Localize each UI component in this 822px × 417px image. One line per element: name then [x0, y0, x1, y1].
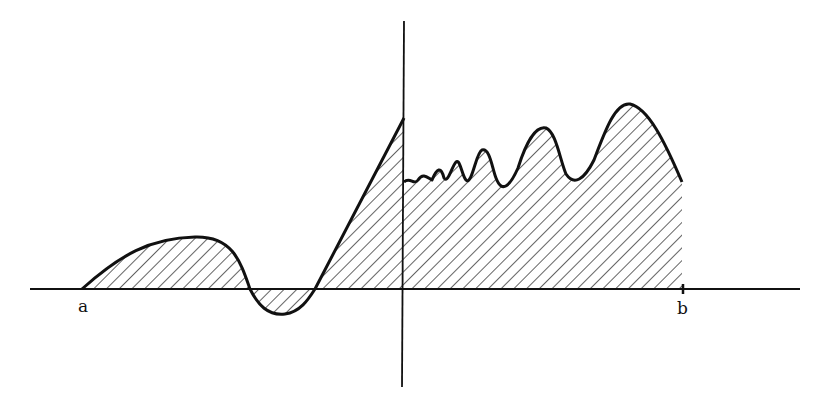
y-axis	[402, 21, 404, 387]
label-b: b	[677, 298, 688, 318]
label-a: a	[78, 296, 88, 316]
hatched-region	[82, 104, 682, 314]
integral-figure: a b	[0, 0, 822, 417]
